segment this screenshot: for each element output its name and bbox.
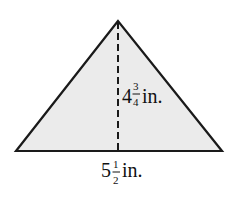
base-whole: 5 (101, 159, 111, 181)
base-denominator: 2 (113, 174, 119, 186)
triangle (16, 21, 222, 151)
base-label: 5 1 2 in. (101, 158, 143, 186)
height-numerator: 3 (133, 80, 139, 92)
base-numerator: 1 (113, 158, 119, 170)
height-denominator: 4 (133, 96, 139, 108)
triangle-diagram: 4 3 4 in. 5 1 2 in. (0, 0, 229, 202)
height-whole: 4 (122, 85, 132, 107)
height-unit: in. (142, 85, 163, 107)
base-unit: in. (122, 159, 143, 181)
height-label: 4 3 4 in. (122, 80, 163, 108)
